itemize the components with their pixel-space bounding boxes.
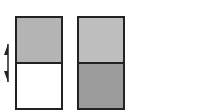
right-column-top-cell <box>79 18 123 64</box>
left-column-top-cell <box>17 18 61 64</box>
right-column <box>77 16 125 110</box>
left-column <box>15 16 63 110</box>
left-column-bottom-cell <box>17 64 61 108</box>
right-column-bottom-cell <box>79 64 123 108</box>
vertical-double-arrow-icon <box>3 43 11 83</box>
